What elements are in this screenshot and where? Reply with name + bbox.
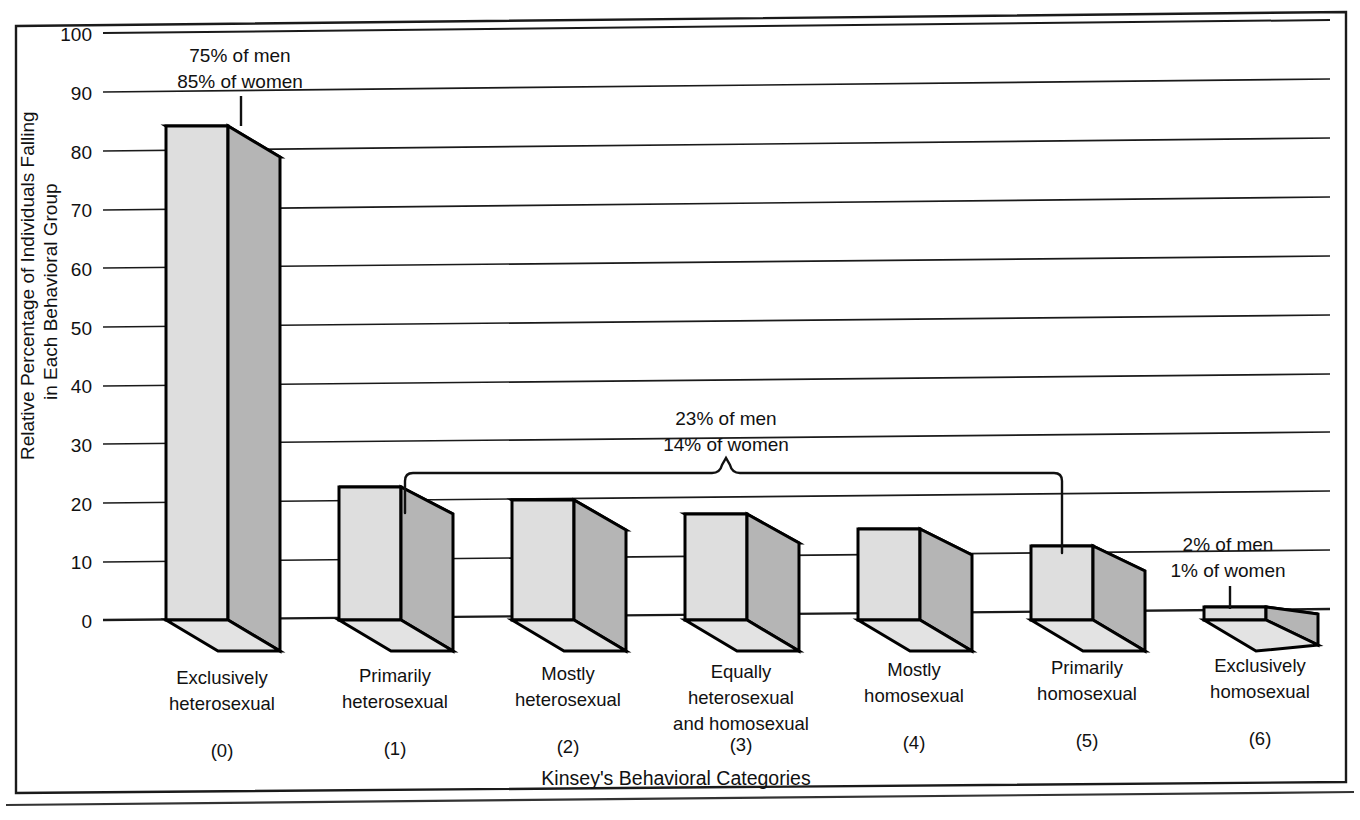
- category-label-3-line-2: heterosexual: [688, 687, 794, 708]
- bar-group-0[interactable]: [166, 126, 280, 651]
- category-label-3-line-3: and homosexual: [673, 713, 809, 734]
- category-label-5-line-2: homosexual: [1037, 683, 1137, 704]
- category-label-4-line-1: Mostly: [887, 659, 941, 680]
- bar-group-1[interactable]: [339, 487, 453, 651]
- y-axis-title-line-2: in Each Behavioral Group: [40, 183, 61, 400]
- annotation-exclusively-heterosexual: 75% of men 85% of women: [177, 45, 303, 126]
- category-label-6-line-2: homosexual: [1210, 681, 1310, 702]
- annotation-0-line-2: 85% of women: [177, 71, 303, 92]
- y-tick-90: 90: [71, 83, 92, 104]
- x-axis-category-labels: Exclusively heterosexual Primarily heter…: [169, 655, 1310, 734]
- annotation-0-line-1: 75% of men: [189, 45, 290, 66]
- category-label-1-line-2: heterosexual: [342, 691, 448, 712]
- figure-canvas: 100 90 80 70 60 50 40 30 20 10 0 Relativ…: [0, 0, 1360, 820]
- annotation-1-line-1: 23% of men: [675, 408, 776, 429]
- category-code-4: (4): [903, 732, 926, 753]
- y-tick-0: 0: [81, 611, 92, 632]
- annotation-exclusively-homosexual: 2% of men 1% of women: [1170, 534, 1285, 609]
- bar-group-6[interactable]: [1204, 607, 1318, 651]
- annotation-1-line-2: 14% of women: [663, 434, 789, 455]
- category-code-3: (3): [730, 734, 753, 755]
- category-code-6: (6): [1249, 728, 1272, 749]
- category-label-1-line-1: Primarily: [359, 665, 432, 686]
- annotation-2-line-1: 2% of men: [1183, 534, 1274, 555]
- category-label-5-line-1: Primarily: [1051, 657, 1124, 678]
- y-tick-50: 50: [71, 318, 92, 339]
- y-tick-60: 60: [71, 259, 92, 280]
- x-axis-title: Kinsey's Behavioral Categories: [541, 767, 811, 789]
- bar-group-4[interactable]: [858, 529, 972, 651]
- bar-group-5[interactable]: [1031, 546, 1145, 651]
- category-label-2-line-1: Mostly: [541, 663, 595, 684]
- y-tick-20: 20: [71, 494, 92, 515]
- bar-group-3[interactable]: [685, 514, 799, 651]
- category-label-6-line-1: Exclusively: [1214, 655, 1306, 676]
- category-label-0-line-2: heterosexual: [169, 693, 275, 714]
- bar-group-2[interactable]: [512, 500, 626, 651]
- y-axis-title: Relative Percentage of Individuals Falli…: [17, 111, 61, 460]
- category-label-0-line-1: Exclusively: [176, 667, 268, 688]
- category-code-5: (5): [1076, 730, 1099, 751]
- y-tick-80: 80: [71, 142, 92, 163]
- y-axis-title-line-1: Relative Percentage of Individuals Falli…: [17, 111, 38, 460]
- y-tick-30: 30: [71, 435, 92, 456]
- category-label-3-line-1: Equally: [711, 661, 772, 682]
- category-code-1: (1): [384, 738, 407, 759]
- y-tick-70: 70: [71, 200, 92, 221]
- category-code-0: (0): [211, 740, 234, 761]
- y-tick-40: 40: [71, 376, 92, 397]
- category-label-2-line-2: heterosexual: [515, 689, 621, 710]
- kinsey-scale-bar-chart: 100 90 80 70 60 50 40 30 20 10 0 Relativ…: [0, 0, 1360, 820]
- y-tick-10: 10: [71, 552, 92, 573]
- y-axis-tick-labels: 100 90 80 70 60 50 40 30 20 10 0: [60, 24, 92, 632]
- y-tick-100: 100: [60, 24, 92, 45]
- category-label-4-line-2: homosexual: [864, 685, 964, 706]
- category-code-2: (2): [557, 736, 580, 757]
- annotation-2-line-2: 1% of women: [1170, 560, 1285, 581]
